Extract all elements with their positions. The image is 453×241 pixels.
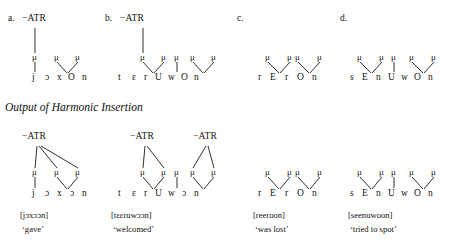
segment-b-output-2: r — [144, 189, 147, 199]
item-label-b-input: b. — [105, 13, 112, 23]
segment-b-output-0: t — [118, 189, 121, 199]
mora-d2-input: μ — [379, 53, 384, 62]
segment-d-output-5: O — [414, 189, 421, 199]
mora-b4-input: μ — [190, 53, 195, 62]
segment-d-input-2: n — [376, 73, 381, 83]
association-lines — [0, 0, 453, 241]
mora-b2-input: μ — [161, 53, 166, 62]
segment-d-output-6: n — [428, 189, 433, 199]
segment-b-input-1: ɛ — [132, 73, 136, 83]
segment-d-input-4: w — [401, 73, 408, 83]
segment-a-output-2: x — [57, 189, 62, 199]
segment-b-output-4: w — [168, 189, 175, 199]
item-label-a-input: a. — [8, 13, 15, 23]
mora-b1-output: μ — [140, 168, 145, 177]
atr-node-a-output: −ATR — [22, 131, 46, 141]
segment-b-output-6: n — [194, 189, 199, 199]
mora-b3-output: μ — [174, 168, 179, 177]
segment-d-output-3: U — [388, 189, 395, 199]
transcription-b: [tɛɛruwɔɔn] — [111, 210, 152, 220]
segment-c-output-4: n — [312, 189, 317, 199]
gloss-b: ‘welcomed’ — [113, 224, 154, 234]
mora-d3-output: μ — [391, 168, 396, 177]
segment-c-input-2: r — [285, 73, 288, 83]
mora-b5-output: μ — [211, 168, 216, 177]
transcription-c: [reeroon] — [253, 210, 285, 220]
segment-c-output-2: r — [285, 189, 288, 199]
segment-b-input-4: w — [168, 73, 175, 83]
segment-d-output-4: w — [401, 189, 408, 199]
atr-node-b-input: −ATR — [120, 13, 144, 23]
item-label-d-input: d. — [340, 13, 347, 23]
mora-c4-input: μ — [317, 53, 322, 62]
mora-a3-output: μ — [75, 168, 80, 177]
segment-d-input-0: s — [350, 73, 354, 83]
segment-d-output-0: s — [350, 189, 354, 199]
mora-c4-output: μ — [317, 168, 322, 177]
segment-c-input-3: O — [297, 73, 304, 83]
segment-a-output-4: n — [82, 189, 87, 199]
segment-a-input-0: j — [32, 73, 35, 83]
transcription-a: [jɔxɔɔn] — [20, 210, 48, 220]
segment-b-input-6: n — [194, 73, 199, 83]
segment-a-input-1: ɔ — [45, 73, 49, 83]
transcription-d: [seenuwoon] — [348, 210, 392, 220]
segment-b-output-5: ɔ — [182, 189, 186, 199]
mora-b2-output: μ — [161, 168, 166, 177]
segment-b-input-0: t — [118, 73, 121, 83]
mora-c1-input: μ — [265, 53, 270, 62]
atr-node-a-input: −ATR — [22, 13, 46, 23]
mora-a3-input: μ — [75, 53, 80, 62]
segment-a-input-2: x — [57, 73, 62, 83]
mora-b1-input: μ — [140, 53, 145, 62]
segment-a-output-3: ɔ — [70, 189, 74, 199]
segment-d-output-1: E — [362, 189, 368, 199]
gloss-a: ‘gave’ — [22, 224, 44, 234]
mora-c2-input: μ — [287, 53, 292, 62]
segment-b-input-5: O — [181, 73, 188, 83]
mora-c1-output: μ — [265, 168, 270, 177]
mora-d5-input: μ — [431, 53, 436, 62]
mora-c3-output: μ — [295, 168, 300, 177]
segment-d-output-2: n — [376, 189, 381, 199]
mora-d5-output: μ — [431, 168, 436, 177]
mora-d4-input: μ — [409, 53, 414, 62]
mora-d3-input: μ — [391, 53, 396, 62]
mora-b5-input: μ — [211, 53, 216, 62]
segment-d-input-5: O — [414, 73, 421, 83]
mora-d4-output: μ — [409, 168, 414, 177]
mora-d2-output: μ — [379, 168, 384, 177]
segment-c-output-3: O — [297, 189, 304, 199]
segment-d-input-1: E — [362, 73, 368, 83]
atr-node-b2-output: −ATR — [193, 131, 217, 141]
atr-node-b1-output: −ATR — [130, 131, 154, 141]
mora-a1-output: μ — [32, 168, 37, 177]
section-heading: Output of Harmonic Insertion — [5, 101, 143, 113]
mora-a2-output: μ — [54, 168, 59, 177]
item-label-c-input: c. — [237, 13, 244, 23]
segment-c-input-4: n — [312, 73, 317, 83]
segment-a-output-0: j — [32, 189, 35, 199]
segment-a-output-1: ɔ — [45, 189, 49, 199]
segment-b-input-3: U — [155, 73, 162, 83]
segment-b-output-1: ɛ — [132, 189, 136, 199]
mora-a2-input: μ — [54, 53, 59, 62]
gloss-d: ‘tried to spot’ — [350, 224, 397, 234]
segment-d-input-6: n — [428, 73, 433, 83]
segment-c-input-0: r — [258, 73, 261, 83]
gloss-c: ‘was lost’ — [255, 224, 289, 234]
segment-a-input-4: n — [82, 73, 87, 83]
segment-a-input-3: O — [68, 73, 75, 83]
mora-d1-output: μ — [357, 168, 362, 177]
mora-b3-input: μ — [174, 53, 179, 62]
mora-b4-output: μ — [190, 168, 195, 177]
segment-c-input-1: E — [270, 73, 276, 83]
segment-c-output-0: r — [258, 189, 261, 199]
mora-a1-input: μ — [32, 53, 37, 62]
figure-canvas: a. −ATR μ μ μ j ɔ x O n b. −ATR μ μ μ μ … — [0, 0, 453, 241]
mora-c3-input: μ — [295, 53, 300, 62]
segment-b-output-3: U — [155, 189, 162, 199]
segment-b-input-2: r — [144, 73, 147, 83]
segment-d-input-3: U — [388, 73, 395, 83]
segment-c-output-1: E — [270, 189, 276, 199]
